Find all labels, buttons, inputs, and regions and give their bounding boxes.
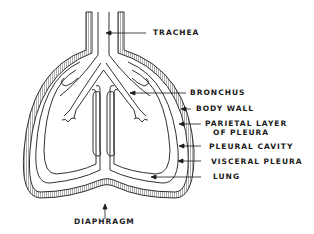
label-body-wall: BODY WALL <box>196 105 254 113</box>
label-visceral-pleura: VISCERAL PLEURA <box>211 158 303 166</box>
trachea <box>60 12 150 96</box>
label-lung: LUNG <box>213 173 240 181</box>
label-parietal-layer-line2: OF PLEURA <box>213 129 269 137</box>
label-parietal-layer-line1: PARIETAL LAYER <box>205 120 287 128</box>
label-bronchus: BRONCHUS <box>190 89 245 97</box>
label-diaphragm: DIAPHRAGM <box>74 218 135 226</box>
label-trachea: TRACHEA <box>153 29 199 37</box>
label-pleural-cavity: PLEURAL CAVITY <box>209 143 293 151</box>
